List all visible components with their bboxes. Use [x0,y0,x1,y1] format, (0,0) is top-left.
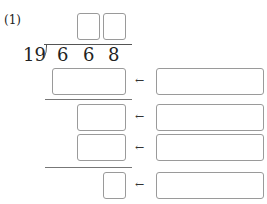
problem-number: (1) [4,13,21,27]
subtraction-line-2 [45,167,132,168]
step1-product-box[interactable] [52,68,126,95]
step2-explanation-box[interactable] [156,104,264,131]
subtraction-line-1 [45,99,132,100]
final-remainder-box[interactable] [103,172,126,199]
quotient-box-tens[interactable] [77,13,100,40]
dividend-digit-hundreds: 6 [57,46,68,64]
arrow-left-icon: ← [135,76,144,86]
step3-explanation-box[interactable] [156,134,264,161]
arrow-left-icon: ← [135,112,144,122]
quotient-box-ones[interactable] [103,13,126,40]
dividend-digit-tens: 6 [83,46,94,64]
arrow-left-icon: ← [135,180,144,190]
step3-product-box[interactable] [77,134,126,161]
arrow-left-icon: ← [135,143,144,153]
divisor: 19 [23,46,46,64]
step1-explanation-box[interactable] [156,68,264,95]
step4-explanation-box[interactable] [156,172,264,199]
step2-remainder-box[interactable] [77,104,126,131]
dividend-digit-ones: 8 [108,46,119,64]
